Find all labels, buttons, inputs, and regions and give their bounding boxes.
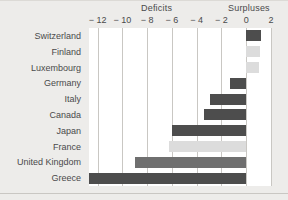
x-tick-label: 0 [244, 15, 249, 25]
category-label: United Kingdom [17, 157, 81, 167]
x-tick-label: 2 [268, 15, 273, 25]
category-label: Luxembourg [31, 63, 81, 73]
x-tick-label: − 8 [141, 15, 154, 25]
x-tick-label: − 6 [166, 15, 179, 25]
category-label: Switzerland [34, 31, 81, 41]
bar [210, 94, 246, 105]
bottom-rule [0, 193, 288, 194]
category-label: France [53, 142, 81, 152]
gridline [271, 28, 272, 186]
x-tick-label: − 4 [190, 15, 203, 25]
category-label: Japan [56, 126, 81, 136]
category-label: Greece [51, 173, 81, 183]
surpluses-header-label: Surpluses [228, 3, 270, 13]
gridline [122, 28, 123, 186]
category-label: Canada [49, 110, 81, 120]
top-rule [0, 0, 288, 1]
bar [246, 62, 258, 73]
x-tick-label: − 2 [215, 15, 228, 25]
bar [135, 157, 246, 168]
y-axis-category-labels: SwitzerlandFinlandLuxembourgGermanyItaly… [0, 28, 85, 186]
bar [230, 78, 246, 89]
category-label: Finland [51, 47, 81, 57]
deficits-header-label: Deficits [141, 3, 172, 13]
gridline [98, 28, 99, 186]
bar [204, 109, 246, 120]
bar [246, 30, 261, 41]
bar [246, 46, 260, 57]
x-tick-label: − 10 [114, 15, 132, 25]
category-label: Italy [64, 94, 81, 104]
x-axis-tick-labels: − 12− 10− 8− 6− 4− 202 [89, 15, 271, 27]
category-label: Germany [44, 78, 81, 88]
plot-area [89, 28, 271, 186]
x-tick-label: − 12 [89, 15, 107, 25]
bar [169, 141, 246, 152]
budget-balance-bar-chart: Deficits Surpluses − 12− 10− 8− 6− 4− 20… [0, 0, 288, 200]
bar [172, 125, 246, 136]
bar [89, 173, 246, 184]
